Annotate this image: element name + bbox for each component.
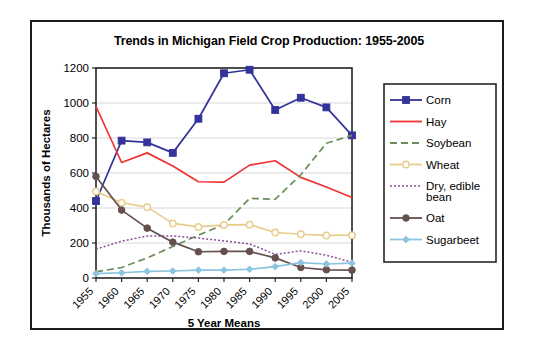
figure-frame: Trends in Michigan Field Crop Production… xyxy=(30,20,504,330)
line-chart: 020040060080010001200Thousands of Hectar… xyxy=(32,22,506,332)
data-point-marker xyxy=(246,66,253,73)
data-point-marker xyxy=(349,260,356,267)
data-point-marker xyxy=(272,255,279,262)
data-point-marker xyxy=(93,188,99,194)
data-point-marker xyxy=(170,220,176,226)
data-point-marker xyxy=(221,248,228,255)
data-point-marker xyxy=(144,225,151,232)
data-point-marker xyxy=(323,232,329,238)
series-wheat xyxy=(93,188,355,239)
y-tick-label: 1200 xyxy=(63,62,89,74)
data-point-marker xyxy=(195,224,201,230)
y-axis: 020040060080010001200 xyxy=(63,62,96,284)
data-point-marker xyxy=(144,204,150,210)
data-point-marker xyxy=(170,239,177,246)
legend-label: Wheat xyxy=(426,159,460,171)
data-point-marker xyxy=(195,248,202,255)
x-tick-label: 1980 xyxy=(198,285,224,311)
series-hay xyxy=(96,107,352,198)
data-point-marker xyxy=(93,173,100,180)
legend-label: Oat xyxy=(426,212,445,224)
data-point-marker xyxy=(403,215,410,222)
data-point-marker xyxy=(246,266,253,273)
legend-label: Soybean xyxy=(426,137,471,149)
data-point-marker xyxy=(144,268,151,275)
data-point-marker xyxy=(403,97,410,104)
y-tick-label: 200 xyxy=(70,237,89,249)
data-point-marker xyxy=(403,161,409,167)
data-point-marker xyxy=(297,94,304,101)
x-axis-title: 5 Year Means xyxy=(188,317,261,329)
data-point-marker xyxy=(118,137,125,144)
data-point-marker xyxy=(272,263,279,270)
data-point-marker xyxy=(272,107,279,114)
data-point-marker xyxy=(195,115,202,122)
legend-label: Sugarbeet xyxy=(426,234,480,246)
x-tick-label: 1985 xyxy=(223,285,249,311)
x-tick-label: 1955 xyxy=(70,285,96,311)
x-axis: 1955196019651970197519801985199019952000… xyxy=(70,278,352,311)
y-tick-label: 0 xyxy=(83,272,89,284)
data-point-marker xyxy=(195,267,202,274)
x-tick-label: 1975 xyxy=(172,285,198,311)
y-tick-label: 400 xyxy=(70,202,89,214)
legend: CornHaySoybeanWheatDry, ediblebeanOatSug… xyxy=(384,84,496,262)
data-point-marker xyxy=(246,248,253,255)
data-point-marker xyxy=(349,232,355,238)
data-point-marker xyxy=(93,198,100,205)
data-point-marker xyxy=(118,269,125,276)
y-tick-label: 600 xyxy=(70,167,89,179)
data-point-marker xyxy=(221,267,228,274)
data-point-marker xyxy=(118,200,124,206)
x-tick-label: 1995 xyxy=(274,285,300,311)
y-tick-label: 1000 xyxy=(63,97,89,109)
data-point-marker xyxy=(118,207,125,214)
data-point-marker xyxy=(298,231,304,237)
data-point-marker xyxy=(323,104,330,111)
data-point-marker xyxy=(221,70,228,77)
x-tick-label: 2000 xyxy=(300,285,326,311)
data-point-marker xyxy=(169,149,176,156)
x-tick-label: 1990 xyxy=(249,285,275,311)
gridlines xyxy=(96,68,352,243)
data-point-marker xyxy=(144,139,151,146)
x-tick-label: 1965 xyxy=(121,285,147,311)
data-point-marker xyxy=(221,222,227,228)
data-point-marker xyxy=(272,229,278,235)
x-tick-label: 1970 xyxy=(146,285,172,311)
y-tick-label: 800 xyxy=(70,132,89,144)
legend-label: Corn xyxy=(426,94,451,106)
data-point-marker xyxy=(246,221,252,227)
series-layer xyxy=(93,66,356,277)
legend-label: Hay xyxy=(426,116,447,128)
x-tick-label: 1960 xyxy=(95,285,121,311)
legend-label: bean xyxy=(426,191,452,203)
data-point-marker xyxy=(170,268,177,275)
x-tick-label: 2005 xyxy=(326,285,352,311)
data-point-marker xyxy=(349,267,356,274)
data-point-marker xyxy=(323,261,330,268)
series-line xyxy=(96,107,352,198)
y-axis-title: Thousands of Hectares xyxy=(40,109,52,236)
